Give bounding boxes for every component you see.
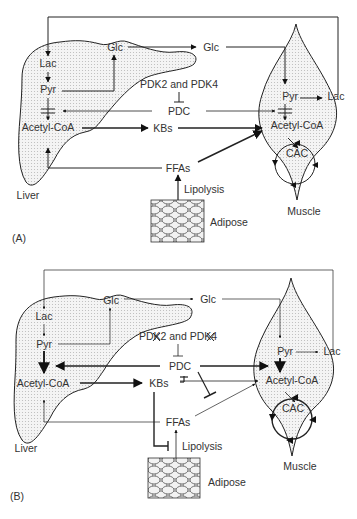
adipose-tissue — [148, 458, 200, 498]
pdk-label: PDK2 and PDK4 — [140, 78, 218, 90]
pdc-label: PDC — [169, 360, 192, 372]
muscle-acetyl-coa-label: Acetyl-CoA — [271, 119, 324, 131]
panel-b: Lac Pyr Glc Acetyl-CoA Glc PDK2 and PDK4… — [10, 270, 340, 502]
adipose-label: Adipose — [210, 216, 248, 228]
muscle-pyr-label: Pyr — [277, 345, 293, 357]
liver-glc-label: Glc — [107, 41, 123, 53]
adipose-tissue — [151, 200, 204, 242]
liver-pyr-label: Pyr — [40, 83, 56, 95]
liver-acetyl-coa-label: Acetyl-CoA — [22, 121, 75, 133]
kbs-label: KBs — [153, 122, 172, 134]
muscle-label: Muscle — [283, 460, 316, 472]
pdk-label: PDK2 and PDK4 — [139, 330, 217, 342]
liver-label: Liver — [15, 442, 38, 454]
panel-a: Lac Pyr Glc Acetyl-CoA Glc PDK2 and PDK4… — [12, 17, 344, 244]
pdc-label: PDC — [168, 105, 191, 117]
cac-label: CAC — [286, 147, 309, 159]
liver-lac-label: Lac — [36, 310, 53, 322]
ffas-label: FFAs — [166, 162, 191, 174]
blood-glc-label: Glc — [200, 293, 216, 305]
liver-lac-label: Lac — [40, 57, 57, 69]
lipolysis-label: Lipolysis — [182, 440, 222, 452]
metabolism-diagram: Lac Pyr Glc Acetyl-CoA Glc PDK2 and PDK4… — [0, 0, 357, 519]
liver-glc-label: Glc — [103, 294, 119, 306]
muscle-lac-label: Lac — [324, 345, 341, 357]
cac-label: CAC — [282, 402, 305, 414]
panel-b-caption: (B) — [10, 490, 24, 502]
muscle-acetyl-coa-label: Acetyl-CoA — [266, 374, 319, 386]
muscle-shape — [254, 278, 334, 456]
liver-label: Liver — [17, 189, 40, 201]
lipolysis-label: Lipolysis — [184, 183, 224, 195]
kbs-label: KBs — [149, 377, 168, 389]
blood-glc-label: Glc — [203, 41, 219, 53]
muscle-lac-label: Lac — [328, 90, 345, 102]
ffas-label: FFAs — [166, 416, 191, 428]
muscle-pyr-label: Pyr — [282, 90, 298, 102]
muscle-shape — [259, 24, 337, 200]
panel-a-caption: (A) — [12, 232, 26, 244]
adipose-label: Adipose — [208, 476, 246, 488]
liver-acetyl-coa-label: Acetyl-CoA — [17, 377, 70, 389]
muscle-label: Muscle — [287, 205, 320, 217]
liver-pyr-label: Pyr — [36, 338, 52, 350]
